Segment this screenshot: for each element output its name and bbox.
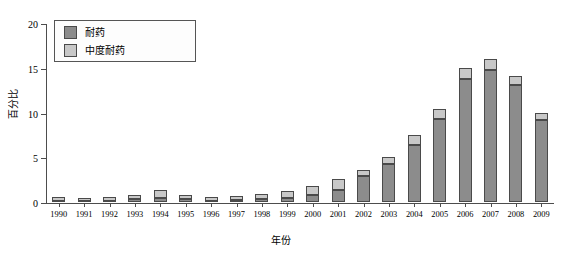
x-tick-label: 2000 [300,210,325,219]
bar-segment-moderate [205,197,218,201]
bar-group[interactable] [230,196,243,202]
bar-segment-moderate [332,179,345,191]
bar-group[interactable] [52,197,65,202]
legend-item-resistant: 耐药 [64,25,105,40]
legend-item-moderate: 中度耐药 [64,43,125,58]
y-tick [41,203,46,204]
bar-group[interactable] [484,59,497,202]
bar-segment-moderate [535,113,548,120]
bar-group[interactable] [382,157,395,202]
bar-segment-moderate [103,197,116,201]
x-tick [135,203,136,207]
bar-segment-resistant [230,200,243,202]
x-tick [541,203,542,207]
bar-segment-moderate [78,198,91,201]
x-tick-label: 1993 [122,210,147,219]
bar-segment-resistant [306,195,319,202]
bar-segment-moderate [179,195,192,199]
x-tick-label: 2005 [427,210,452,219]
bar-segment-moderate [230,196,243,200]
bar-segment-moderate [459,68,472,79]
bar-group[interactable] [205,197,218,202]
x-tick-label: 2009 [529,210,554,219]
y-tick [41,158,46,159]
x-tick [262,203,263,207]
x-tick-label: 2004 [402,210,427,219]
x-tick [313,203,314,207]
bar-group[interactable] [408,135,421,202]
bar-segment-moderate [382,157,395,164]
bar-segment-moderate [306,186,319,195]
x-tick [211,203,212,207]
x-tick-label: 1999 [275,210,300,219]
y-tick [41,24,46,25]
bar-segment-resistant [128,199,141,202]
bar-segment-resistant [154,198,167,202]
bar-group[interactable] [535,113,548,203]
bar-segment-resistant [459,79,472,203]
bar-segment-moderate [281,191,294,197]
legend-swatch-moderate-icon [64,44,77,57]
bar-segment-moderate [408,135,421,145]
bar-group[interactable] [78,198,91,202]
x-tick-label: 2006 [452,210,477,219]
x-tick-label: 1991 [71,210,96,219]
y-tick-label: 0 [16,203,38,204]
bar-segment-resistant [255,199,268,202]
y-tick [41,114,46,115]
y-axis-line [46,24,47,204]
bar-chart: 百分比 年份 05101520 199019911992199319941995… [0,0,562,256]
bar-segment-moderate [509,76,522,85]
x-tick [364,203,365,207]
x-axis-label: 年份 [0,232,562,247]
chart-legend: 耐药 中度耐药 [54,20,196,62]
x-tick-label: 2001 [325,210,350,219]
bar-group[interactable] [128,195,141,202]
y-axis-label: 百分比 [5,74,20,134]
y-tick [41,69,46,70]
y-tick-label: 20 [16,24,38,25]
bar-group[interactable] [154,190,167,202]
bar-segment-resistant [408,145,421,202]
bar-segment-moderate [128,195,141,199]
x-tick [440,203,441,207]
bar-group[interactable] [357,170,370,202]
x-tick [84,203,85,207]
x-tick-label: 2003 [376,210,401,219]
bar-group[interactable] [433,109,446,202]
legend-label-moderate: 中度耐药 [85,44,125,57]
bar-segment-resistant [332,190,345,202]
bar-group[interactable] [179,195,192,202]
bar-segment-resistant [357,176,370,202]
bar-group[interactable] [332,179,345,202]
x-tick [59,203,60,207]
x-tick-label: 2002 [351,210,376,219]
bar-segment-resistant [484,70,497,202]
x-tick [160,203,161,207]
legend-swatch-resistant-icon [64,26,77,39]
bar-segment-moderate [484,59,497,71]
x-tick-label: 1992 [97,210,122,219]
bar-segment-resistant [382,164,395,202]
x-tick-label: 1995 [173,210,198,219]
x-tick [186,203,187,207]
bar-segment-resistant [179,199,192,202]
bar-group[interactable] [509,76,522,202]
bar-segment-moderate [52,197,65,201]
x-tick [491,203,492,207]
x-tick-label: 1997 [224,210,249,219]
x-axis-line [46,203,554,204]
bar-group[interactable] [255,194,268,202]
bar-group[interactable] [103,197,116,202]
bar-group[interactable] [306,186,319,202]
x-tick [516,203,517,207]
bar-segment-resistant [281,198,294,202]
legend-label-resistant: 耐药 [85,26,105,39]
x-tick-label: 1994 [148,210,173,219]
bar-group[interactable] [459,68,472,202]
bar-segment-moderate [433,109,446,119]
bar-segment-moderate [255,194,268,199]
x-tick [414,203,415,207]
bar-group[interactable] [281,191,294,202]
x-tick [287,203,288,207]
